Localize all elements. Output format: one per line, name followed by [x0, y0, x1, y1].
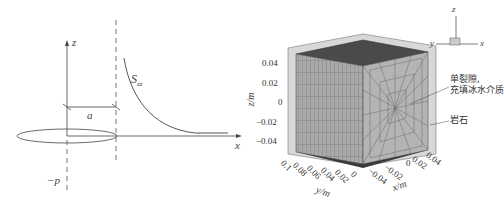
- triad-x-label: x: [480, 38, 484, 48]
- x-tick: 0: [406, 158, 411, 168]
- z-tick: −0.02: [256, 117, 277, 127]
- rock-annotation: 岩石: [450, 115, 468, 126]
- fracture-annotation-line1: 单裂隙,: [450, 74, 504, 85]
- crack-schematic-drawing: [0, 0, 250, 204]
- z-tick: 0: [278, 97, 283, 107]
- z-tick: 0.04: [262, 58, 278, 68]
- pressure-label: −p: [47, 174, 60, 186]
- fracture-annotation: 单裂隙, 充填冰水介质: [450, 74, 504, 96]
- z-axis-title: z/m: [245, 93, 256, 107]
- crack-half-length-label: a: [87, 109, 93, 121]
- fracture-annotation-line2: 充填冰水介质: [450, 85, 504, 96]
- stress-curve-subscript: zz: [137, 80, 142, 88]
- x-axis-label: x: [235, 139, 240, 151]
- triad-z-label: z: [452, 4, 456, 14]
- triad-y-label: y: [430, 38, 434, 48]
- z-tick: −0.04: [256, 136, 277, 146]
- stress-curve-label: Szz: [131, 72, 142, 88]
- mesh-model-panel: z y x z/m 0.04 0.02 0 −0.02 −0.04 0.1 0.…: [250, 0, 500, 204]
- crack-schematic-panel: z x Szz a −p: [0, 0, 250, 204]
- z-axis-label: z: [72, 36, 76, 48]
- z-tick: 0.02: [262, 78, 278, 88]
